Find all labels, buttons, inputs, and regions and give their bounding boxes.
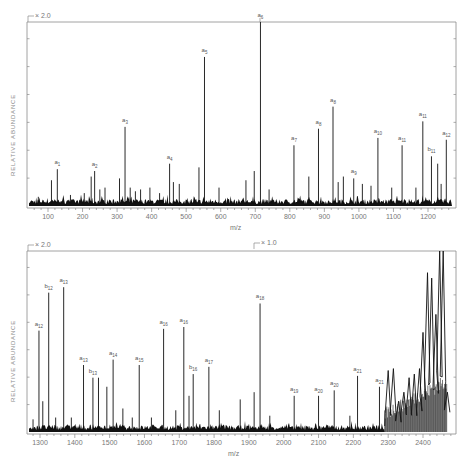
peak-label: a7 xyxy=(291,135,297,143)
x-tick-label: 2000 xyxy=(276,439,292,446)
y-axis-label: RELATIVE ABUNDANCE xyxy=(10,94,16,176)
x-tick-label: 500 xyxy=(180,213,192,220)
x-tick-label: 1400 xyxy=(67,439,83,446)
peak-label: a3 xyxy=(122,117,128,125)
x-tick-label: 1500 xyxy=(102,439,118,446)
peak-label: a13 xyxy=(79,355,88,363)
y-axis-label: RELATIVE ABUNDANCE xyxy=(10,320,16,402)
x-axis-label: m/z xyxy=(228,450,240,457)
peak-label: a16 xyxy=(159,319,168,327)
peak-label: a8 xyxy=(316,119,322,127)
x-tick-label: 1000 xyxy=(351,213,367,220)
peak-label: a20 xyxy=(314,386,323,394)
noise-baseline xyxy=(29,195,452,207)
peak-label: b13 xyxy=(89,368,98,376)
peak-label: a13 xyxy=(59,277,68,285)
peak-label: a15 xyxy=(135,355,144,363)
peak-label: a10 xyxy=(374,128,383,136)
x-tick-label: 1700 xyxy=(171,439,187,446)
peak-label: a12 xyxy=(442,130,451,138)
bottom-spectrum: 1300140015001600170018001900200021002200… xyxy=(10,239,456,457)
noise-baseline xyxy=(29,421,385,432)
x-tick-label: 2400 xyxy=(415,439,431,446)
peak-label: a20 xyxy=(330,380,339,388)
top-spectrum: 100200300400500600700800900100011001200R… xyxy=(10,12,456,231)
peak-label: a11 xyxy=(398,135,407,143)
x-tick-label: 1200 xyxy=(420,213,436,220)
x-tick-label: 1900 xyxy=(241,439,257,446)
x-tick-label: 200 xyxy=(77,213,89,220)
x-axis-label: m/z xyxy=(230,224,242,231)
peak-label: b11 xyxy=(427,146,436,154)
x-tick-label: 300 xyxy=(111,213,123,220)
x-tick-label: 1100 xyxy=(386,213,401,220)
peak-label: a9 xyxy=(351,168,357,176)
peak-label: a5 xyxy=(202,47,208,55)
x-tick-label: 600 xyxy=(215,213,227,220)
peak-label: a6 xyxy=(258,12,264,20)
x-tick-label: 100 xyxy=(42,213,54,220)
x-tick-label: 400 xyxy=(146,213,158,220)
scale-marker: × 1.0 xyxy=(261,239,277,246)
x-tick-label: 2300 xyxy=(380,439,396,446)
peak-label: a16 xyxy=(180,317,189,325)
x-tick-label: 800 xyxy=(284,213,296,220)
peak-label: a4 xyxy=(167,154,173,162)
peak-label: a21 xyxy=(375,377,384,385)
x-tick-label: 1800 xyxy=(206,439,222,446)
x-tick-label: 2100 xyxy=(311,439,327,446)
x-tick-label: 1600 xyxy=(137,439,153,446)
peak-label: a2 xyxy=(92,161,98,169)
x-tick-label: 900 xyxy=(319,213,331,220)
x-tick-label: 2200 xyxy=(346,439,362,446)
peak-label: a11 xyxy=(419,111,428,119)
peak-label: a14 xyxy=(109,350,118,358)
mass-spectrum-figure: 100200300400500600700800900100011001200R… xyxy=(0,0,466,472)
peak-label: a18 xyxy=(256,293,265,301)
peak-label: a8 xyxy=(330,97,336,105)
x-tick-label: 700 xyxy=(249,213,261,220)
peak-label: a19 xyxy=(290,386,299,394)
scale-marker: × 2.0 xyxy=(35,241,51,248)
scale-marker: × 2.0 xyxy=(35,12,51,19)
peak-label: b12 xyxy=(45,283,54,291)
peak-label: a1 xyxy=(54,159,60,167)
peak-label: a17 xyxy=(205,357,214,365)
peak-label: a12 xyxy=(35,321,44,329)
peak-label: a21 xyxy=(353,366,362,374)
x-tick-label: 1300 xyxy=(32,439,48,446)
peak-label: b16 xyxy=(189,364,198,372)
